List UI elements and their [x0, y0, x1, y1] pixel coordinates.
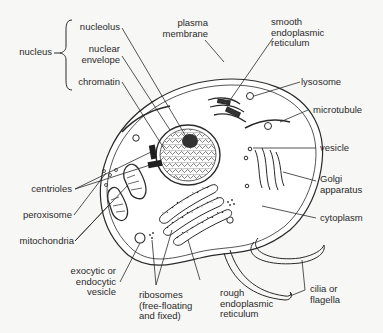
label-microtubule: microtubule	[313, 105, 362, 116]
label-cilia-flagella: cilia or flagella	[310, 284, 340, 305]
nucleus	[156, 125, 220, 185]
label-ribosomes: ribosomes (free-floating and fixed)	[139, 290, 192, 322]
label-nucleolus: nucleolus	[68, 22, 120, 33]
label-nucleus: nucleus	[4, 47, 52, 58]
label-plasma-membrane: plasma membrane	[150, 18, 208, 39]
label-mitochondria: mitochondria	[4, 236, 74, 247]
label-centrioles: centrioles	[10, 184, 72, 195]
label-lysosome: lysosome	[301, 77, 341, 88]
label-peroxisome: peroxisome	[4, 210, 72, 221]
label-vesicle: vesicle	[320, 143, 349, 154]
label-rough-er: rough endoplasmic reticulum	[220, 288, 273, 320]
label-exocytic-vesicle: exocytic or endocytic vesicle	[40, 266, 116, 298]
label-chromatin: chromatin	[68, 77, 120, 88]
label-nuclear-envelope: nuclear envelope	[68, 44, 120, 65]
label-golgi-apparatus: Golgi apparatus	[320, 174, 362, 195]
label-cytoplasm: cytoplasm	[320, 213, 363, 224]
exocytic-vesicle	[135, 233, 145, 243]
label-smooth-er: smooth endoplasmic reticulum	[271, 17, 351, 49]
lysosome	[247, 93, 254, 100]
nucleolus	[182, 134, 198, 148]
